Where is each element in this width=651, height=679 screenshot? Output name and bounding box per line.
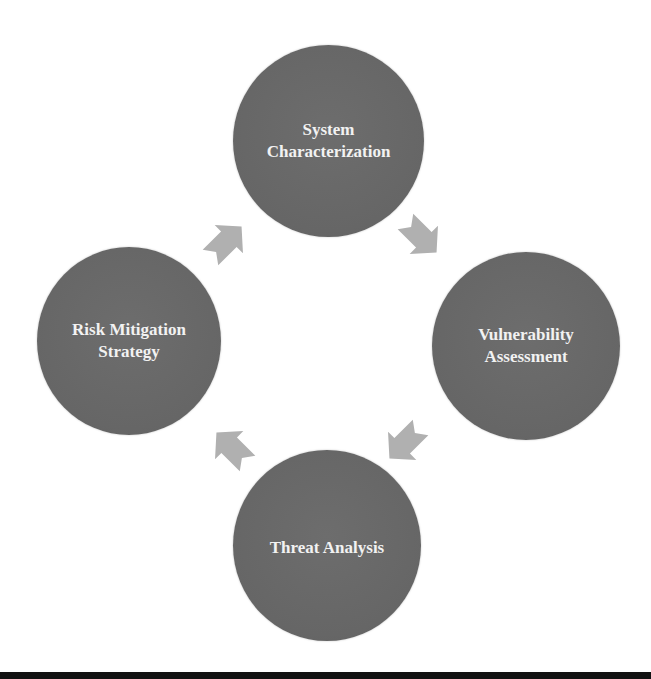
cycle-diagram: System Characterization Vulnerability As… [0, 0, 651, 679]
arrow-up-right-icon [198, 214, 254, 270]
node-label: Vulnerability Assessment [468, 324, 584, 368]
node-vulnerability-assessment: Vulnerability Assessment [432, 252, 620, 440]
node-risk-mitigation-strategy: Risk Mitigation Strategy [37, 247, 221, 435]
node-label: System Characterization [257, 119, 401, 163]
node-label: Risk Mitigation Strategy [62, 319, 196, 363]
node-threat-analysis: Threat Analysis [233, 450, 421, 641]
node-label: Threat Analysis [260, 533, 394, 559]
page-bottom-border [0, 672, 651, 679]
arrow-down-left-icon [376, 414, 434, 472]
arrow-down-right-icon [394, 208, 448, 266]
arrow-up-left-icon [203, 420, 261, 476]
